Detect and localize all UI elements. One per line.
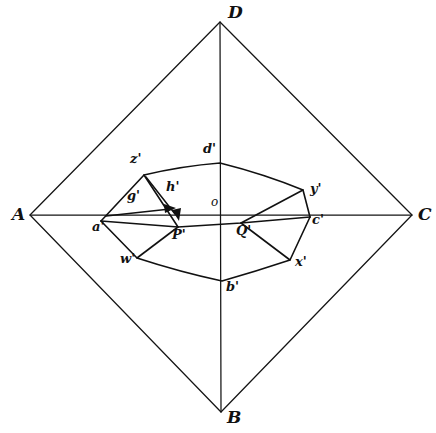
vertex-label-P-prime: P' [172, 228, 186, 241]
vertex-label-B: B [227, 409, 241, 426]
geometry-diagram: A D C B a' z' d' y' c' x' b' w' P' Q' o … [0, 0, 436, 433]
vertex-label-c-prime: c' [312, 213, 324, 226]
figure-canvas [0, 0, 436, 433]
vector-label-g-prime: g' [127, 189, 140, 202]
vertex-label-D: D [228, 4, 243, 21]
vertex-label-b-prime: b' [226, 280, 239, 293]
vertex-label-z-prime: z' [130, 152, 141, 165]
vertex-label-C: C [418, 206, 432, 223]
vertex-label-a-prime: a' [92, 220, 104, 233]
inner-median-chord [101, 217, 310, 227]
vertex-label-A: A [12, 206, 25, 223]
vertex-label-y-prime: y' [310, 182, 322, 195]
vertex-label-w-prime: w' [120, 252, 135, 265]
vertex-label-x-prime: x' [295, 255, 307, 268]
center-point-label-o: o [211, 196, 218, 208]
inner-lower-boundary [101, 217, 310, 281]
vertical-axis-line [220, 22, 221, 412]
vertex-label-Q-prime: Q' [236, 224, 251, 237]
vector-label-h-prime: h' [166, 180, 179, 193]
vertex-label-d-prime: d' [203, 142, 216, 155]
